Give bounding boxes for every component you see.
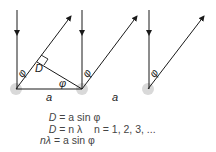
eq3-rhs: = a sin φ (54, 134, 95, 146)
spacing-label-1: a (46, 91, 52, 103)
equations-block: D = a sin φ D = n λ n = 1, 2, 3, ... nλ … (40, 112, 156, 147)
eq1-lhs: D (49, 111, 57, 123)
arrow-down-icon (14, 30, 20, 36)
spacing-label-2: a (112, 91, 118, 103)
eq2-lhs: D (49, 123, 57, 135)
equation-3: nλ = a sin φ (40, 135, 156, 147)
eq2-note: n = 1, 2, 3, ... (94, 123, 156, 135)
arrow-down-icon (146, 30, 152, 36)
eq2-rhs: = n λ (59, 123, 82, 135)
arrow-down-icon (79, 30, 85, 36)
eq3-lhs: nλ (40, 134, 51, 146)
path-difference-label: D (35, 62, 43, 74)
eq1-rhs: = a sin φ (59, 111, 100, 123)
angle-label-base: φ (59, 77, 66, 89)
